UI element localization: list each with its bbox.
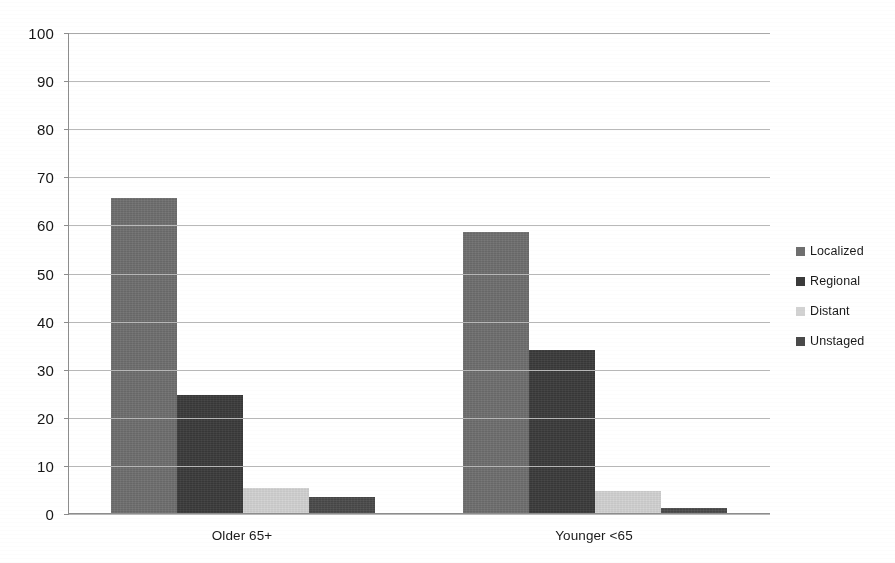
- bar-regional-older-65: [177, 395, 243, 513]
- gridline-10: [69, 466, 770, 467]
- gridline-0: [69, 514, 770, 515]
- y-tick-label-60: 60: [37, 217, 54, 234]
- gridline-100: [69, 33, 770, 34]
- y-tickmark-0: [64, 514, 69, 515]
- legend-item-distant[interactable]: Distant: [796, 296, 892, 326]
- y-tick-label-0: 0: [45, 506, 54, 523]
- legend-swatch-regional-icon: [796, 277, 805, 286]
- legend-item-regional[interactable]: Regional: [796, 266, 892, 296]
- y-tick-label-100: 100: [28, 25, 54, 42]
- x-category-label-2: Younger <65: [555, 528, 633, 543]
- y-tick-label-50: 50: [37, 265, 54, 282]
- legend-label-regional: Regional: [810, 274, 860, 288]
- y-tick-label-20: 20: [37, 409, 54, 426]
- bar-distant-older-65: [243, 488, 309, 513]
- y-tick-label-40: 40: [37, 313, 54, 330]
- legend-item-localized[interactable]: Localized: [796, 236, 892, 266]
- y-tickmark-30: [64, 370, 69, 371]
- y-tick-label-90: 90: [37, 73, 54, 90]
- legend-label-distant: Distant: [810, 304, 850, 318]
- y-tickmark-10: [64, 466, 69, 467]
- gridline-50: [69, 274, 770, 275]
- y-tickmark-40: [64, 322, 69, 323]
- bar-distant-younger-65: [595, 491, 661, 513]
- bar-unstaged-older-65: [309, 497, 375, 513]
- y-tick-label-30: 30: [37, 361, 54, 378]
- y-tickmark-100: [64, 33, 69, 34]
- y-tick-label-70: 70: [37, 169, 54, 186]
- bar-regional-younger-65: [529, 350, 595, 513]
- plot-area: [68, 33, 770, 514]
- y-tickmark-20: [64, 418, 69, 419]
- legend-swatch-distant-icon: [796, 307, 805, 316]
- legend-label-unstaged: Unstaged: [810, 334, 864, 348]
- y-tickmark-80: [64, 129, 69, 130]
- y-tickmark-50: [64, 274, 69, 275]
- y-axis: 0102030405060708090100: [0, 33, 60, 514]
- legend: LocalizedRegionalDistantUnstaged: [796, 236, 892, 356]
- gridline-20: [69, 418, 770, 419]
- legend-item-unstaged[interactable]: Unstaged: [796, 326, 892, 356]
- bar-unstaged-younger-65: [661, 508, 727, 513]
- gridline-40: [69, 322, 770, 323]
- gridline-70: [69, 177, 770, 178]
- gridline-30: [69, 370, 770, 371]
- y-tick-label-80: 80: [37, 121, 54, 138]
- bar-chart: 0102030405060708090100 Older 65+Younger …: [0, 0, 895, 563]
- gridline-90: [69, 81, 770, 82]
- y-tickmark-60: [64, 225, 69, 226]
- legend-swatch-localized-icon: [796, 247, 805, 256]
- x-category-label-1: Older 65+: [212, 528, 273, 543]
- legend-label-localized: Localized: [810, 244, 864, 258]
- legend-swatch-unstaged-icon: [796, 337, 805, 346]
- y-tick-label-10: 10: [37, 457, 54, 474]
- gridline-80: [69, 129, 770, 130]
- y-tickmark-90: [64, 81, 69, 82]
- gridline-60: [69, 225, 770, 226]
- y-tickmark-70: [64, 177, 69, 178]
